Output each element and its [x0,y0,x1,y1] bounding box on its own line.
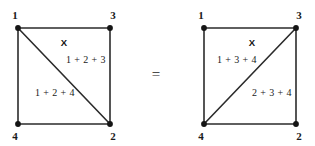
right-vertex-4-dot [201,121,207,127]
right-upper-triangle-label: 1 + 3 + 4 [217,54,257,65]
left-x-marker: X [61,37,68,48]
left-vertex-4-dot [15,121,21,127]
left-vertex-label-1: 1 [12,9,18,21]
left-vertex-2-dot [107,121,113,127]
right-x-marker: X [249,37,256,48]
right-lower-triangle-label: 2 + 3 + 4 [252,87,292,98]
left-quad-group: 1 3 2 4 X 1 + 2 + 3 1 + 2 + 4 [12,9,116,142]
diagram-canvas: 1 3 2 4 X 1 + 2 + 3 1 + 2 + 4 = 1 3 2 4 … [0,0,315,146]
right-vertex-label-4: 4 [198,130,204,142]
right-vertex-label-3: 3 [296,9,302,21]
left-vertex-label-4: 4 [12,130,18,142]
left-upper-triangle-label: 1 + 2 + 3 [66,54,106,65]
left-lower-triangle-label: 1 + 2 + 4 [35,87,75,98]
right-vertex-label-1: 1 [198,9,204,21]
left-vertex-label-3: 3 [110,9,116,21]
triangulation-diagram: 1 3 2 4 X 1 + 2 + 3 1 + 2 + 4 = 1 3 2 4 … [0,0,315,146]
right-vertex-label-2: 2 [296,130,302,142]
left-vertex-3-dot [107,25,113,31]
equals-sign: = [152,66,160,82]
right-vertex-3-dot [293,25,299,31]
right-quad-group: 1 3 2 4 X 1 + 3 + 4 2 + 3 + 4 [198,9,302,142]
right-vertex-2-dot [293,121,299,127]
left-vertex-1-dot [15,25,21,31]
right-vertex-1-dot [201,25,207,31]
left-vertex-label-2: 2 [110,130,116,142]
